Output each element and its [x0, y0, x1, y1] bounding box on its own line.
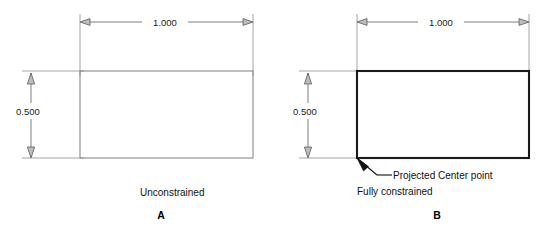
- panel-b-leader-arrow-icon: [357, 158, 369, 171]
- panel-a-height-arrow-top-icon: [27, 73, 34, 84]
- panel-a: 1.000 0.500 Unconstrained A: [16, 14, 253, 221]
- panel-b-rectangle-geometry[interactable]: [357, 71, 529, 158]
- panel-a-width-arrow-right-icon: [243, 19, 253, 26]
- panel-a-width-arrow-left-icon: [80, 19, 90, 26]
- panel-a-caption: Unconstrained: [140, 187, 204, 198]
- panel-a-width-dimension-text: 1.000: [153, 17, 177, 28]
- panel-b-height-dimension-text: 0.500: [293, 106, 317, 117]
- panel-b-width-arrow-right-icon: [519, 19, 529, 26]
- panel-b-width-dimension-text: 1.000: [429, 17, 453, 28]
- panel-a-height-arrow-bottom-icon: [27, 147, 34, 158]
- panel-b-projected-center-point-note: Projected Center point: [393, 170, 493, 181]
- panel-b-width-arrow-left-icon: [357, 19, 367, 26]
- panel-a-rectangle-geometry[interactable]: [80, 71, 253, 158]
- panel-b-height-arrow-bottom-icon: [304, 147, 311, 158]
- panel-b: 1.000 0.500 Projected Center point Fully…: [293, 14, 529, 221]
- panel-a-letter: A: [157, 209, 165, 221]
- panel-b-caption: Fully constrained: [357, 186, 433, 197]
- panel-b-height-arrow-top-icon: [304, 73, 311, 84]
- figure-canvas: 1.000 0.500 Unconstrained A: [0, 0, 544, 229]
- technical-drawing-figure: 1.000 0.500 Unconstrained A: [0, 0, 544, 229]
- panel-a-height-dimension-text: 0.500: [16, 106, 40, 117]
- panel-b-letter: B: [433, 209, 441, 221]
